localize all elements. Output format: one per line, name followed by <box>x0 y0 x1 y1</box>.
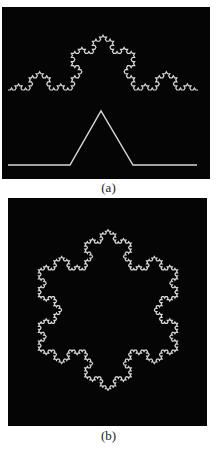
koch-snowflake-outline <box>39 230 178 391</box>
caption-a: (a) <box>0 180 217 196</box>
panel-a-koch-curve <box>2 7 210 179</box>
koch-snowflake-plot <box>8 198 207 426</box>
panel-b-koch-snowflake <box>8 198 207 426</box>
koch-curve-plot <box>2 7 210 179</box>
koch-generator-line <box>8 111 197 165</box>
caption-b: (b) <box>0 428 217 444</box>
koch-curve-line <box>8 35 198 90</box>
